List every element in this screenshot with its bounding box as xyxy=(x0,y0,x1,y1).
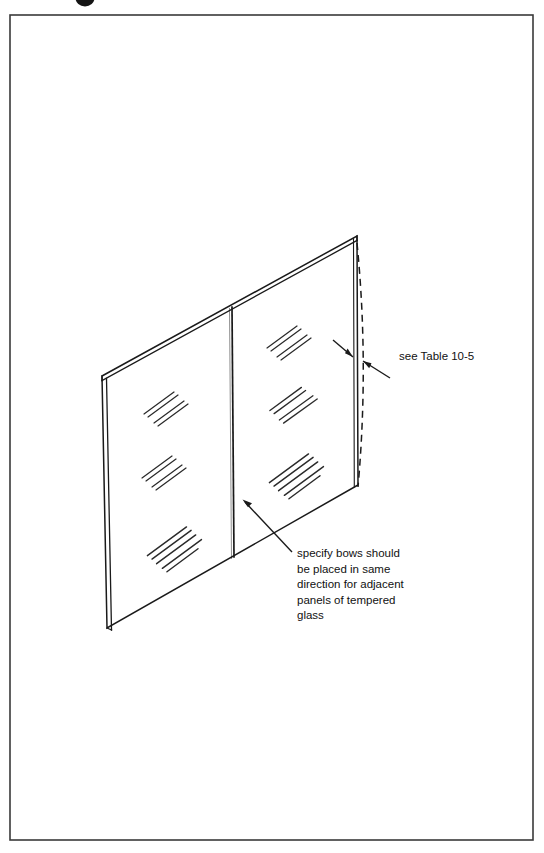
bow-direction-line-4: panels of tempered xyxy=(297,594,395,606)
see-table-label: see Table 10-5 xyxy=(399,350,474,362)
bow-direction-line-3: direction for adjacent xyxy=(297,578,405,590)
bow-direction-line-5: glass xyxy=(297,609,324,621)
figure-drawing-canvas: see Table 10-5 specify bows should be pl… xyxy=(0,0,544,853)
figure-page: see Table 10-5 specify bows should be pl… xyxy=(0,0,544,853)
bow-direction-line-2: be placed in same xyxy=(297,563,390,575)
page-background xyxy=(0,0,544,853)
bow-direction-line-1: specify bows should xyxy=(297,547,400,559)
